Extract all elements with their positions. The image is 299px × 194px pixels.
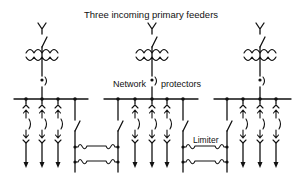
fuse-chevron-icon xyxy=(132,105,138,108)
network-diagram: Three incoming primary feeders Network p… xyxy=(0,0,299,194)
load-arrow-icon xyxy=(40,162,45,168)
network-protector-icon xyxy=(40,77,46,85)
limiter-cable xyxy=(75,160,118,164)
load-circuit xyxy=(39,99,47,168)
switch-icon xyxy=(75,121,80,131)
load-circuit xyxy=(240,99,248,168)
protectors-label: protectors xyxy=(161,79,202,89)
arrow-up-icon xyxy=(258,110,263,118)
feeder-left xyxy=(26,23,58,99)
fuse-chevron-icon xyxy=(164,105,170,108)
switch-icon xyxy=(152,37,157,47)
load-arrow-icon xyxy=(24,162,29,168)
network-protector-icon xyxy=(258,77,264,85)
tie-left-middle xyxy=(73,99,123,172)
arrow-down-icon xyxy=(40,130,45,138)
load-arrow-icon xyxy=(133,162,138,168)
load-arrow-icon xyxy=(258,162,263,168)
feeder-right xyxy=(244,23,276,99)
bus-left xyxy=(14,97,88,168)
fuse-chevron-icon xyxy=(273,105,279,108)
arrow-up-icon xyxy=(241,110,246,118)
fuse-chevron-icon xyxy=(39,105,45,108)
load-arrow-icon xyxy=(56,162,61,168)
load-arrow-icon xyxy=(150,162,155,168)
load-circuit xyxy=(132,99,140,168)
fuse-chevron-icon xyxy=(23,105,29,108)
limiter-cable xyxy=(75,145,118,149)
load-circuit xyxy=(273,99,281,168)
arrow-down-icon xyxy=(165,130,170,138)
network-protector-icon xyxy=(150,77,156,85)
arrow-up-icon xyxy=(40,110,45,118)
fuse-chevron-icon xyxy=(55,105,61,108)
arrow-down-icon xyxy=(56,130,61,138)
switch-icon xyxy=(118,121,123,131)
fuse-chevron-icon xyxy=(240,105,246,108)
load-circuit xyxy=(23,99,31,168)
switch-icon xyxy=(183,121,188,131)
switch-icon xyxy=(227,121,232,131)
secondary-buses xyxy=(14,97,291,168)
arrow-up-icon xyxy=(56,110,61,118)
switch-icon xyxy=(42,37,47,47)
load-arrow-icon xyxy=(274,162,279,168)
limiter-label: Limiter xyxy=(193,135,219,145)
arrow-down-icon xyxy=(241,130,246,138)
arrow-down-icon xyxy=(274,130,279,138)
diagram-title: Three incoming primary feeders xyxy=(84,9,218,20)
fuse-chevron-icon xyxy=(257,105,263,108)
arrow-down-icon xyxy=(258,130,263,138)
arrow-down-icon xyxy=(133,130,138,138)
arrow-up-icon xyxy=(133,110,138,118)
wye-icon xyxy=(148,23,156,34)
load-circuit xyxy=(55,99,63,168)
arrow-up-icon xyxy=(24,110,29,118)
network-label: Network xyxy=(113,79,147,89)
load-arrow-icon xyxy=(165,162,170,168)
wye-icon xyxy=(256,23,264,34)
bus-right xyxy=(214,97,291,168)
wye-icon xyxy=(38,23,46,34)
load-circuit xyxy=(149,99,157,168)
fuse-chevron-icon xyxy=(149,105,155,108)
limiter-cable xyxy=(183,160,227,164)
arrow-up-icon xyxy=(165,110,170,118)
arrow-down-icon xyxy=(24,130,29,138)
load-arrow-icon xyxy=(241,162,246,168)
load-circuit xyxy=(257,99,265,168)
switch-icon xyxy=(260,37,265,47)
arrow-up-icon xyxy=(150,110,155,118)
arrow-up-icon xyxy=(274,110,279,118)
load-circuit xyxy=(164,99,172,168)
arrow-down-icon xyxy=(150,130,155,138)
limiter-cable xyxy=(183,145,227,149)
primary-feeders xyxy=(26,23,276,99)
